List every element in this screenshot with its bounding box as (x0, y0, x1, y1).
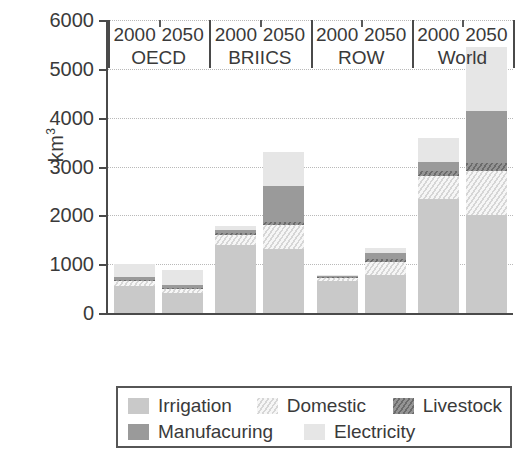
x-axis-group-label-world: World (402, 47, 522, 69)
y-axis-tick-label: 3000 (50, 155, 95, 178)
x-axis-group-separator (513, 20, 515, 68)
chart-legend: IrrigationDomesticLivestock Manufacuring… (116, 386, 512, 448)
legend-item-manufacuring[interactable]: Manufacuring (128, 421, 304, 443)
legend-swatch-livestock-icon (393, 398, 414, 414)
y-axis-tick (99, 215, 108, 217)
gridline (108, 118, 513, 119)
bar-oecd-2050 (162, 270, 203, 313)
bar-segment-electricity (263, 152, 304, 186)
legend-swatch-electricity-icon (304, 424, 325, 440)
stacked-bar-chart-figure: km3 6000500040003000200010000 20002050OE… (0, 0, 527, 466)
y-axis-tick (99, 313, 108, 315)
y-axis-tick-label: 1000 (50, 253, 95, 276)
legend-label: Manufacuring (158, 421, 273, 443)
legend-label: Livestock (423, 395, 502, 417)
bar-segment-irrigation (418, 199, 459, 313)
legend-swatch-manufacturing-icon (128, 424, 149, 440)
x-axis-year-label: 2050 (256, 24, 312, 46)
y-axis-tick (99, 20, 108, 22)
x-axis-minor-tick (159, 20, 161, 27)
x-axis-minor-tick (462, 20, 464, 27)
y-axis-tick (99, 69, 108, 71)
bar-segment-manufacuring (418, 162, 459, 171)
bar-row-2050 (365, 248, 406, 313)
bar-segment-irrigation (263, 249, 304, 313)
bar-briics-2000 (215, 226, 256, 313)
bar-segment-domestic (418, 176, 459, 198)
legend-row-2: ManufacuringElectricity (128, 419, 502, 445)
bar-segment-manufacuring (466, 111, 507, 163)
bar-segment-domestic (466, 171, 507, 215)
bar-oecd-2000 (114, 264, 155, 313)
bar-segment-irrigation (215, 245, 256, 313)
bar-segment-irrigation (365, 275, 406, 313)
bar-segment-irrigation (162, 293, 203, 313)
bar-segment-irrigation (317, 281, 358, 313)
x-axis-year-label: 2050 (357, 24, 413, 46)
bar-row-2000 (317, 275, 358, 313)
legend-item-irrigation[interactable]: Irrigation (128, 395, 257, 417)
bar-segment-electricity (162, 270, 203, 286)
y-axis-tick-label: 2000 (50, 204, 95, 227)
x-axis-minor-tick (361, 20, 363, 27)
legend-label: Domestic (287, 395, 366, 417)
y-axis-tick (99, 167, 108, 169)
bar-segment-irrigation (114, 286, 155, 313)
legend-swatch-domestic-icon (257, 398, 278, 414)
bar-segment-domestic (215, 235, 256, 244)
legend-label: Electricity (334, 421, 415, 443)
bar-briics-2050 (263, 152, 304, 313)
y-axis-tick (99, 118, 108, 120)
x-axis-minor-tick (260, 20, 262, 27)
y-axis-tick (99, 264, 108, 266)
legend-item-livestock[interactable]: Livestock (393, 395, 502, 417)
x-axis-year-label: 2050 (458, 24, 514, 46)
bar-world-2000 (418, 138, 459, 313)
legend-item-electricity[interactable]: Electricity (304, 421, 415, 443)
bar-segment-electricity (418, 138, 459, 162)
bar-segment-manufacuring (263, 186, 304, 222)
legend-swatch-irrigation-icon (128, 398, 149, 414)
legend-label: Irrigation (158, 395, 232, 417)
y-axis-tick-label: 5000 (50, 57, 95, 80)
bar-segment-domestic (365, 262, 406, 276)
y-axis-tick-label: 6000 (50, 9, 95, 32)
legend-row-1: IrrigationDomesticLivestock (128, 393, 502, 419)
bar-segment-livestock (466, 163, 507, 171)
bar-segment-electricity (114, 264, 155, 277)
x-axis-year-label: 2050 (155, 24, 211, 46)
bar-world-2050 (466, 47, 507, 313)
bar-segment-irrigation (466, 215, 507, 313)
plot-area: 6000500040003000200010000 20002050OECD20… (106, 20, 513, 315)
bar-segment-domestic (263, 225, 304, 248)
legend-item-domestic[interactable]: Domestic (257, 395, 393, 417)
y-axis-tick-label: 4000 (50, 106, 95, 129)
y-axis-tick-label: 0 (83, 302, 94, 325)
